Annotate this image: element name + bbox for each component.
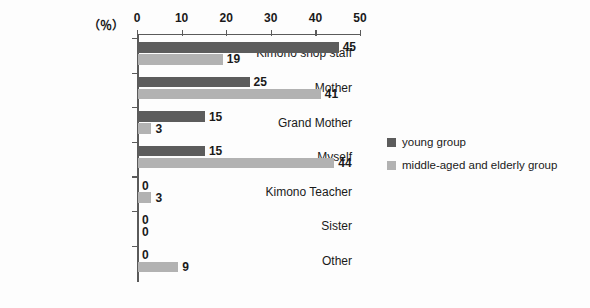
y-axis-tick	[132, 211, 137, 212]
plot-area: 01020304050Kimono shop staff4519Mother25…	[137, 36, 360, 282]
legend-swatch-icon	[387, 138, 396, 147]
x-axis-tick-label: 10	[175, 11, 188, 25]
x-axis-tick	[315, 30, 316, 36]
x-axis-tick	[226, 30, 227, 36]
legend-label: young group	[402, 136, 466, 148]
y-axis-tick	[132, 246, 137, 247]
y-axis-tick	[132, 142, 137, 143]
bar-value-label: 3	[155, 191, 162, 205]
bar-young	[138, 111, 205, 122]
bar-value-label: 41	[325, 87, 338, 101]
x-axis-tick-label: 20	[220, 11, 233, 25]
legend-label: middle-aged and elderly group	[402, 159, 557, 171]
y-axis-tick	[132, 38, 137, 39]
category-label: Kimono Teacher	[266, 185, 353, 199]
bar-middle-aged	[138, 262, 178, 273]
bar-middle-aged	[138, 123, 151, 134]
bar-young	[138, 146, 205, 157]
x-axis-tick-label: 30	[264, 11, 277, 25]
y-axis-tick	[132, 107, 137, 108]
x-axis-tick-label: 0	[134, 11, 141, 25]
horizontal-bar-chart: （％） 01020304050Kimono shop staff4519Moth…	[0, 0, 590, 308]
y-axis-tick	[132, 73, 137, 74]
category-label: Grand Mother	[278, 116, 352, 130]
x-axis-tick	[360, 30, 361, 36]
legend-item[interactable]: middle-aged and elderly group	[387, 159, 557, 171]
bar-value-label: 3	[155, 122, 162, 136]
bar-middle-aged	[138, 158, 334, 169]
x-axis-tick-label: 40	[309, 11, 322, 25]
bar-middle-aged	[138, 54, 223, 65]
category-label: Sister	[321, 219, 352, 233]
bar-value-label: 0	[142, 179, 149, 193]
bar-value-label: 15	[209, 144, 222, 158]
bar-young	[138, 77, 250, 88]
chart-legend: young groupmiddle-aged and elderly group	[387, 136, 557, 182]
x-axis-tick	[271, 30, 272, 36]
bar-value-label: 9	[182, 260, 189, 274]
y-axis-tick	[132, 176, 137, 177]
bar-value-label: 25	[254, 75, 267, 89]
x-axis-tick	[182, 30, 183, 36]
bar-value-label: 19	[227, 52, 240, 66]
x-axis-tick	[137, 30, 138, 36]
value-axis-line	[137, 34, 360, 35]
legend-item[interactable]: young group	[387, 136, 557, 148]
category-label: Other	[322, 254, 352, 268]
bar-value-label: 0	[142, 225, 149, 239]
bar-young	[138, 42, 339, 53]
bar-value-label: 15	[209, 110, 222, 124]
bar-middle-aged	[138, 192, 151, 203]
legend-swatch-icon	[387, 161, 396, 170]
x-axis-tick-label: 50	[353, 11, 366, 25]
bar-value-label: 0	[142, 248, 149, 262]
bar-value-label: 45	[343, 40, 356, 54]
bar-middle-aged	[138, 89, 321, 100]
bar-value-label: 44	[338, 156, 351, 170]
axis-unit-label: （％）	[88, 16, 124, 33]
